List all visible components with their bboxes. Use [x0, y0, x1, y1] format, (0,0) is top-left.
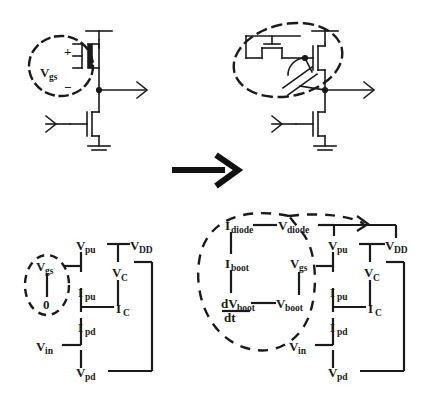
node-dt: dt [224, 310, 236, 325]
node-ipd: I [78, 320, 83, 335]
node-vgs-sub: gs [45, 266, 54, 276]
node-vdd-2-sub: DD [394, 245, 408, 255]
figure-canvas: + − V gs [0, 0, 441, 406]
node-ipu-sub: pu [85, 292, 96, 302]
node-ipu-2: I [330, 285, 335, 300]
circuit-diagram-svg: + − V gs [0, 0, 441, 406]
node-vboot-sub: boot [285, 303, 304, 313]
node-vpu-sub: pu [85, 245, 96, 255]
highlight-tail [289, 214, 364, 224]
node-vpd-sub: pd [85, 372, 96, 382]
boot-cap-arc [288, 58, 305, 75]
node-dvboot: dV [221, 296, 238, 311]
node-vpd-2-sub: pd [337, 372, 348, 382]
panel-bottom-right-labels: I diode V diode I boot V gs dV boot dt V… [221, 218, 408, 382]
node-ic-sub: C [123, 308, 130, 318]
node-dvboot-sub: boot [237, 303, 256, 313]
minus-sign: − [64, 80, 71, 95]
node-vgs-2-sub: gs [299, 263, 308, 273]
node-ipu-2-sub: pu [337, 292, 348, 302]
panel-bottom-left-labels: V gs 0 V pu V DD V C I pu I C I pd V in … [36, 238, 153, 382]
boot-cap-plate-1 [283, 67, 312, 88]
panel-top-left [29, 31, 147, 150]
highlight-ellipse-vgs [29, 36, 93, 96]
node-iboot: I [225, 256, 230, 271]
transition-arrow [172, 155, 238, 186]
node-ic: I [116, 301, 121, 316]
node-vin-sub: in [45, 346, 54, 356]
boot-cap-plate-2 [288, 74, 317, 95]
node-ipd-2-sub: pd [337, 327, 348, 337]
node-vdiode-sub: diode [287, 225, 309, 235]
vgs-label-subscript: gs [49, 72, 58, 82]
node-vc-sub: C [121, 273, 128, 283]
highlight-ellipse-bootstrap [227, 13, 350, 106]
node-iboot-sub: boot [231, 263, 250, 273]
node-vin-2-sub: in [298, 346, 307, 356]
node-ic-2-sub: C [375, 308, 382, 318]
panel-top-left-labels: + − V gs [40, 44, 71, 95]
node-ipu: I [78, 285, 83, 300]
node-vc-2-sub: C [373, 273, 380, 283]
node-idiode-sub: diode [231, 225, 253, 235]
plus-sign: + [64, 44, 71, 59]
node-ipd-2: I [330, 320, 335, 335]
node-vdd-sub: DD [139, 245, 153, 255]
node-ic-2: I [368, 301, 373, 316]
node-vpu-2-sub: pu [337, 245, 348, 255]
node-idiode: I [225, 218, 230, 233]
node-ipd-sub: pd [85, 327, 96, 337]
panel-top-right [227, 13, 374, 150]
node-zero: 0 [43, 297, 50, 312]
